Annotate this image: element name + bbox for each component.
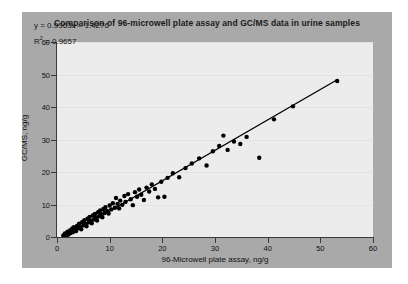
data-point [126, 192, 130, 196]
data-point [100, 215, 104, 219]
data-point [117, 206, 121, 210]
data-point [159, 180, 163, 184]
data-point [162, 195, 166, 199]
x-tick-label: 40 [255, 244, 281, 253]
x-tick [268, 238, 269, 243]
y-tick [51, 140, 57, 141]
data-point [232, 139, 236, 143]
x-tick-label: 20 [149, 244, 175, 253]
data-point [84, 224, 88, 228]
x-tick-label: 0 [44, 244, 70, 253]
data-point [335, 79, 339, 83]
data-point [113, 206, 117, 210]
x-tick [110, 238, 111, 243]
x-tick [215, 238, 216, 243]
x-tick [57, 238, 58, 243]
y-tick [51, 205, 57, 206]
x-axis-title: 96-Microwell plate assay, ng/g [57, 255, 373, 264]
data-point [111, 201, 115, 205]
data-point [150, 182, 154, 186]
data-point [129, 197, 133, 201]
y-tick-label: 40 [24, 103, 50, 112]
x-tick-label: 10 [97, 244, 123, 253]
r-squared-text: R2 = 0.9657 [34, 32, 109, 48]
data-point [257, 156, 261, 160]
y-axis-title: GC/MS, ng/g [20, 115, 29, 161]
data-point [217, 144, 221, 148]
data-point [114, 196, 118, 200]
data-point [197, 156, 201, 160]
data-point [153, 187, 157, 191]
y-tick-label: 20 [24, 168, 50, 177]
data-point [204, 163, 208, 167]
y-tick [51, 75, 57, 76]
plot-area [57, 42, 373, 237]
y-tick-label: 50 [24, 71, 50, 80]
y-tick [51, 172, 57, 173]
data-point [123, 200, 127, 204]
x-tick [320, 238, 321, 243]
data-point [139, 193, 143, 197]
regression-equation: y = 0.9363x – 1.4276 [34, 20, 109, 32]
x-tick [162, 238, 163, 243]
data-point [135, 195, 139, 199]
data-point [183, 166, 187, 170]
data-point [103, 205, 107, 209]
data-point [221, 133, 225, 137]
y-tick [51, 107, 57, 108]
r-squared-value: = 0.9657 [43, 37, 77, 46]
data-point [131, 203, 135, 207]
x-tick [373, 238, 374, 243]
data-point [225, 148, 229, 152]
data-point [272, 117, 276, 121]
x-tick-label: 60 [360, 244, 386, 253]
data-point [190, 161, 194, 165]
regression-annotation: y = 0.9363x – 1.4276 R2 = 0.9657 [34, 20, 109, 48]
data-point [147, 189, 151, 193]
y-tick-label: 0 [24, 233, 50, 242]
data-point [133, 190, 137, 194]
data-point [291, 104, 295, 108]
data-point [238, 142, 242, 146]
x-tick-label: 50 [307, 244, 333, 253]
data-point [156, 195, 160, 199]
data-point [211, 149, 215, 153]
y-tick-label: 10 [24, 201, 50, 210]
data-point [79, 227, 83, 231]
data-point [171, 171, 175, 175]
data-point [95, 218, 99, 222]
scatter-plot-canvas [57, 42, 373, 237]
data-point [118, 198, 122, 202]
data-point [144, 185, 148, 189]
data-point [177, 175, 181, 179]
x-tick-label: 30 [202, 244, 228, 253]
data-point [137, 187, 141, 191]
data-point [244, 135, 248, 139]
data-point [142, 198, 146, 202]
chart-figure: Comparison of 96-microwell plate assay a… [22, 12, 392, 268]
data-point [165, 176, 169, 180]
data-point [106, 211, 110, 215]
data-point [90, 221, 94, 225]
